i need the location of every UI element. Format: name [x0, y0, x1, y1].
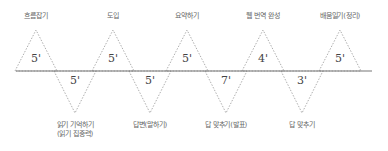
top-step-duration: 5': [182, 52, 192, 65]
bottom-step-label: 답 맞추기(발표): [205, 121, 247, 130]
bottom-step-label: 답 맞추기: [289, 121, 314, 130]
bottom-step-duration: 7': [221, 74, 231, 87]
top-step-label: 흐름잡기: [24, 12, 47, 21]
bottom-step-duration: 5': [70, 74, 80, 87]
top-step-duration: 5': [335, 52, 345, 65]
bottom-step-sublabel: (읽기 집중력): [57, 130, 93, 139]
bottom-step-duration: 3': [297, 74, 307, 87]
bottom-step-label: 읽기 기억하기: [57, 121, 94, 130]
top-step-duration: 5': [31, 52, 41, 65]
top-step-label: 도입: [107, 12, 119, 21]
bottom-step-duration: 5': [145, 74, 155, 87]
top-step-duration: 5': [108, 52, 118, 65]
top-step-duration: 4': [258, 52, 268, 65]
top-step-label: 배움일기(정리): [320, 12, 360, 21]
top-step-label: 요약하기: [175, 12, 198, 21]
bottom-step-label: 답변(말하기): [133, 121, 167, 130]
top-step-label: 웹 번역 완성: [246, 12, 279, 21]
